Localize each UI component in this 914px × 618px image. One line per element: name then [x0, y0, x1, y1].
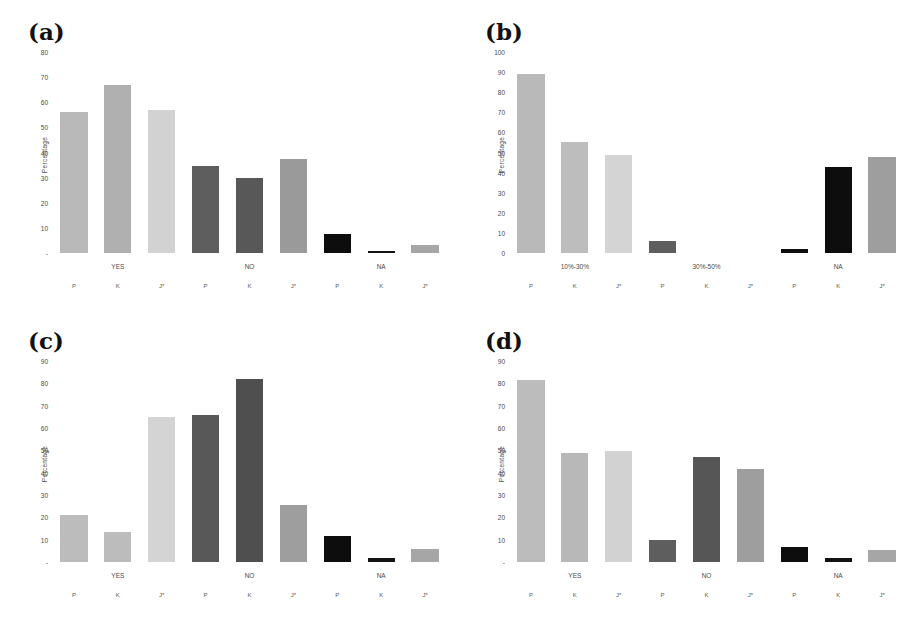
- panel-b-x-tick-label: P: [792, 283, 796, 289]
- panel-a-x-tick-label: P: [335, 283, 339, 289]
- panel-d-y-tick: 90: [481, 358, 505, 365]
- bar-b-3050-P: [649, 241, 676, 253]
- bar-a-NA-P: [324, 234, 351, 253]
- panel-b-x-tick-label: P: [529, 283, 533, 289]
- panel-d-x-tick-label: J*: [879, 592, 884, 598]
- bar-a-NO-P: [192, 166, 219, 253]
- panel-d-x-tick-label: J*: [748, 592, 753, 598]
- bar-b-1030-Jstar: [605, 155, 632, 253]
- panel-b-y-tick: 60: [481, 129, 505, 136]
- panel-d-label: (d): [485, 327, 523, 354]
- panel-b-group-label: 10%-30%: [561, 263, 589, 270]
- panel-c-y-tick: 20: [24, 514, 48, 521]
- panel-b-group-labels: 10%-30%30%-50%NA: [509, 263, 904, 275]
- panel-d-group-label: NA: [834, 572, 843, 579]
- panel-d-x-tick-label: P: [529, 592, 533, 598]
- panel-c-y-tick: 30: [24, 491, 48, 498]
- panel-b-bars: [509, 52, 904, 253]
- panel-a-x-tick-label: J*: [159, 283, 164, 289]
- panel-d-y-tick: -: [481, 559, 505, 566]
- bar-c-NA-K: [368, 558, 395, 562]
- panel-c-x-tick-label: K: [247, 592, 251, 598]
- panel-a-y-tick: 10: [24, 224, 48, 231]
- panel-c-x-tick-label: P: [335, 592, 339, 598]
- panel-a-x-tick-label: K: [379, 283, 383, 289]
- panel-a-label: (a): [28, 18, 65, 45]
- panel-d-x-tick-label: K: [704, 592, 708, 598]
- panel-d-y-tick: 70: [481, 402, 505, 409]
- panel-c-bars: [52, 361, 447, 562]
- bar-a-NO-Jstar: [280, 159, 307, 253]
- bar-d-NO-K: [693, 457, 720, 562]
- panel-a-y-tick: -: [24, 250, 48, 257]
- panel-d-y-tick: 30: [481, 491, 505, 498]
- panel-c-x-tick-label: P: [72, 592, 76, 598]
- panel-d-y-tick: 10: [481, 536, 505, 543]
- panel-d-x-tick-label: P: [661, 592, 665, 598]
- bar-c-YES-K: [104, 532, 131, 562]
- panel-c-y-tick: 60: [24, 424, 48, 431]
- panel-a-y-tick: 30: [24, 174, 48, 181]
- panel-d-y-tick: 60: [481, 424, 505, 431]
- panel-d-x-tick-label: J*: [616, 592, 621, 598]
- bar-c-NO-K: [236, 379, 263, 562]
- figure-four-panel-bar-charts: (a) Percentage -1020304050607080 YESNONA…: [0, 0, 914, 618]
- panel-d-bars: [509, 361, 904, 562]
- panel-b-x-tick-label: P: [661, 283, 665, 289]
- panel-b-x-tick-label: K: [836, 283, 840, 289]
- panel-b-y-tick: 90: [481, 69, 505, 76]
- panel-c-x-tick-label: K: [379, 592, 383, 598]
- panel-b-y-tick: 10: [481, 229, 505, 236]
- panel-c-y-tick: -: [24, 559, 48, 566]
- bar-a-YES-Jstar: [148, 110, 175, 253]
- panel-a-x-tick-label: J*: [422, 283, 427, 289]
- panel-a-group-label: YES: [111, 263, 124, 270]
- panel-c-y-tick: 90: [24, 358, 48, 365]
- bar-c-NA-P: [324, 536, 351, 562]
- panel-d-y-tick: 20: [481, 514, 505, 521]
- panel-d-group-label: NO: [702, 572, 712, 579]
- panel-a-group-label: NO: [245, 263, 255, 270]
- bar-a-YES-K: [104, 85, 131, 253]
- panel-b-group-label: 30%-50%: [692, 263, 720, 270]
- panel-c-group-label: NO: [245, 572, 255, 579]
- panel-c-x-ticks: PKJ*PKJ*PKJ*: [52, 592, 447, 604]
- panel-b-y-tick: 0: [481, 250, 505, 257]
- panel-d-group-labels: YESNONA: [509, 572, 904, 584]
- panel-a-x-ticks: PKJ*PKJ*PKJ*: [52, 283, 447, 295]
- panel-c: (c) Percentage -102030405060708090 YESNO…: [0, 309, 457, 618]
- bar-a-YES-P: [60, 112, 87, 253]
- bar-c-NO-Jstar: [280, 505, 307, 562]
- panel-a-x-tick-label: P: [72, 283, 76, 289]
- bar-a-NA-K: [368, 251, 395, 254]
- bar-c-YES-P: [60, 515, 87, 562]
- panel-b-y-tick: 50: [481, 149, 505, 156]
- bar-b-1030-K: [561, 142, 588, 253]
- panel-c-x-tick-label: J*: [291, 592, 296, 598]
- panel-a-x-tick-label: P: [204, 283, 208, 289]
- bar-d-NA-P: [781, 547, 808, 562]
- panel-b-x-tick-label: K: [573, 283, 577, 289]
- panel-a-x-tick-label: K: [247, 283, 251, 289]
- panel-c-label: (c): [28, 327, 64, 354]
- panel-b-y-tick: 30: [481, 189, 505, 196]
- panel-d-y-tick: 80: [481, 380, 505, 387]
- panel-a-y-tick: 50: [24, 124, 48, 131]
- bar-c-NA-Jstar: [411, 549, 438, 562]
- panel-a-y-tick: 60: [24, 99, 48, 106]
- panel-c-x-tick-label: J*: [422, 592, 427, 598]
- panel-a-y-tick: 40: [24, 149, 48, 156]
- panel-d-plot-area: -102030405060708090: [509, 361, 904, 562]
- bar-c-NO-P: [192, 415, 219, 562]
- bar-c-YES-Jstar: [148, 417, 175, 562]
- panel-a-y-tick: 20: [24, 199, 48, 206]
- panel-a-x-tick-label: J*: [291, 283, 296, 289]
- panel-d-x-tick-label: K: [573, 592, 577, 598]
- panel-b-x-tick-label: J*: [748, 283, 753, 289]
- panel-b-y-tick: 80: [481, 89, 505, 96]
- bar-d-YES-K: [561, 453, 588, 562]
- panel-b-plot-area: 0102030405060708090100: [509, 52, 904, 253]
- panel-c-y-tick: 80: [24, 380, 48, 387]
- bar-b-NA-P: [781, 249, 808, 253]
- panel-b-y-tick: 70: [481, 109, 505, 116]
